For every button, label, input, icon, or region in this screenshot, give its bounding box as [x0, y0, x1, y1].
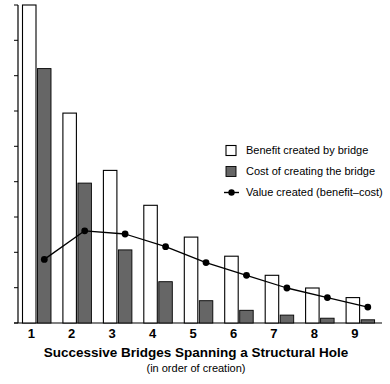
chart-title: Successive Bridges Spanning a Structural…: [44, 345, 349, 360]
legend-label: Benefit created by bridge: [246, 144, 368, 156]
legend-swatch-open-square-icon: [226, 146, 236, 156]
value-data-point: [203, 259, 210, 266]
legend-label: Cost of creating the bridge: [246, 165, 375, 177]
cost-bar: [240, 310, 254, 323]
x-tick-label: 4: [149, 326, 157, 341]
benefit-bar: [184, 237, 198, 323]
benefit-bar: [346, 298, 360, 323]
cost-bar: [159, 282, 173, 323]
value-data-point: [284, 285, 291, 292]
legend-swatch-marker-icon: [228, 189, 234, 195]
value-data-point: [243, 272, 250, 279]
x-tick-label: 3: [108, 326, 115, 341]
cost-bar: [321, 318, 335, 323]
cost-bar: [118, 250, 131, 323]
cost-bar: [199, 301, 213, 323]
benefit-bar: [23, 5, 37, 323]
benefit-bar: [225, 256, 239, 323]
x-tick-label: 9: [351, 326, 358, 341]
legend-label: Value created (benefit–cost): [246, 186, 383, 198]
x-tick-label: 1: [28, 326, 35, 341]
legend-item: Value created (benefit–cost): [224, 186, 383, 198]
value-data-point: [364, 304, 371, 311]
value-data-point: [122, 231, 129, 238]
structural-hole-bar-chart: 123456789 Benefit created by bridgeCost …: [0, 0, 390, 384]
cost-bar: [38, 69, 52, 323]
value-data-point: [41, 256, 48, 263]
benefit-bar: [63, 113, 77, 323]
value-data-point: [324, 294, 331, 301]
x-tick-label: 6: [230, 326, 237, 341]
x-tick-label: 8: [311, 326, 318, 341]
benefit-bar: [144, 205, 158, 323]
cost-bar: [361, 320, 375, 323]
chart-container: 123456789 Benefit created by bridgeCost …: [0, 0, 390, 384]
legend-item: Cost of creating the bridge: [226, 165, 375, 177]
legend-swatch-filled-square-icon: [226, 167, 236, 177]
x-tick-label: 2: [68, 326, 75, 341]
chart-subtitle: (in order of creation): [146, 362, 245, 374]
x-tick-label: 5: [189, 326, 196, 341]
value-data-point: [162, 243, 169, 250]
cost-bar: [280, 315, 294, 323]
x-tick-label: 7: [270, 326, 277, 341]
value-data-point: [81, 227, 88, 234]
cost-bar: [78, 183, 92, 323]
legend-item: Benefit created by bridge: [226, 144, 368, 156]
benefit-bar: [103, 170, 117, 323]
chart-legend: Benefit created by bridgeCost of creatin…: [224, 144, 383, 198]
